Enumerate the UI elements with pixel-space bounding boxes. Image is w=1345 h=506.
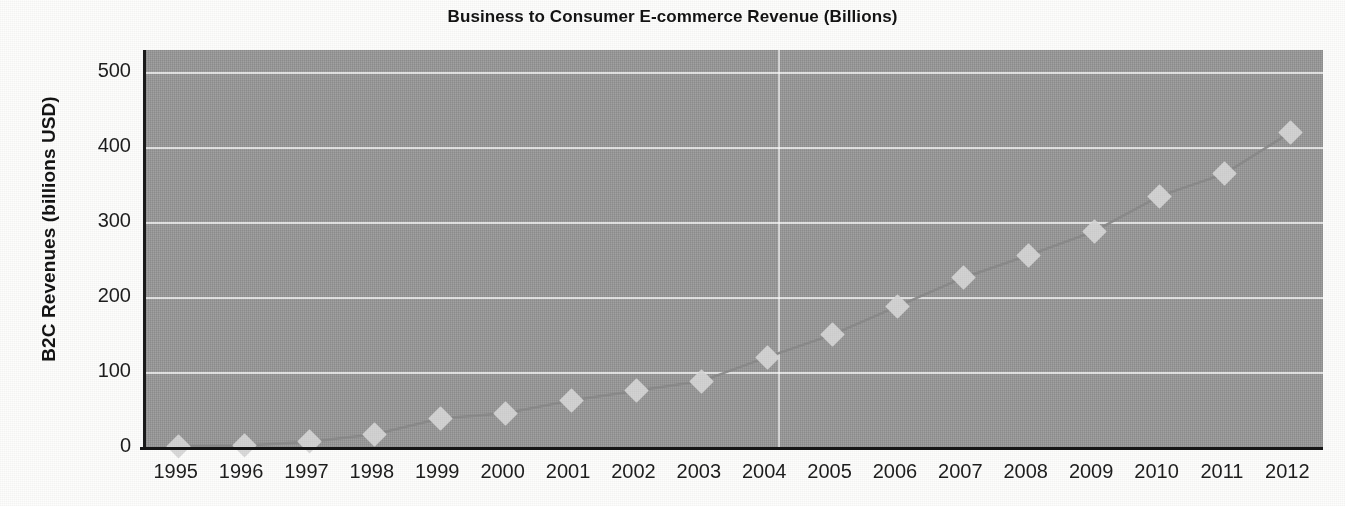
y-tick-label: 200 <box>11 284 131 307</box>
y-axis-tick-labels: 0100200300400500 <box>0 50 131 447</box>
x-axis-tick-labels: 1995199619971998199920002001200220032004… <box>143 460 1320 490</box>
y-tick-label: 300 <box>11 209 131 232</box>
chart-title: Business to Consumer E-commerce Revenue … <box>0 7 1345 27</box>
x-axis-line <box>140 447 1323 450</box>
y-tick-label: 400 <box>11 134 131 157</box>
y-tick-label: 500 <box>11 59 131 82</box>
chart-figure: Business to Consumer E-commerce Revenue … <box>0 0 1345 506</box>
plot-area <box>143 50 1323 447</box>
series-line <box>146 50 1323 447</box>
y-tick-label: 100 <box>11 359 131 382</box>
x-tick-label: 2012 <box>1247 460 1327 483</box>
y-tick-label: 0 <box>11 434 131 457</box>
